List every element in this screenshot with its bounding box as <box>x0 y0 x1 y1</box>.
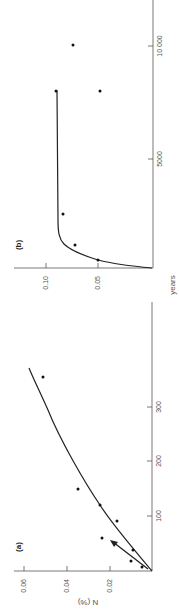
panel-b: 5000 10 000 0.10 0.05 (b) <box>14 0 163 290</box>
b-fit-curve <box>55 91 152 268</box>
a-tick-label-100: 100 <box>155 510 162 522</box>
a-tick-label-300: 300 <box>155 401 162 413</box>
panel-a: 100 200 300 0.06 0.04 0.02 (a) <box>14 302 162 593</box>
n-axis-label: N (%) <box>77 598 98 607</box>
a-point <box>141 566 144 569</box>
b-point <box>72 44 75 47</box>
a-point <box>130 560 133 563</box>
figure: 5000 10 000 0.10 0.05 (b) years 100 200 … <box>0 0 179 611</box>
a-tick-label-0.02: 0.02 <box>106 579 113 593</box>
b-tick-label-10000: 10 000 <box>156 35 163 57</box>
b-tick-label-0.10: 0.10 <box>42 276 49 290</box>
a-point <box>77 488 80 491</box>
arrow-head-icon <box>110 540 118 547</box>
years-axis-label: years <box>168 275 177 295</box>
a-point <box>101 537 104 540</box>
b-point <box>97 259 100 262</box>
b-point <box>74 244 77 247</box>
panel-label-a: (a) <box>14 542 23 552</box>
b-tick-label-0.05: 0.05 <box>94 276 101 290</box>
b-point <box>55 90 58 93</box>
a-tick-label-200: 200 <box>155 455 162 467</box>
panel-label-b: (b) <box>14 240 23 251</box>
a-tick-label-0.06: 0.06 <box>20 579 27 593</box>
b-tick-label-5000: 5000 <box>156 151 163 167</box>
a-tick-label-0.04: 0.04 <box>63 579 70 593</box>
a-point <box>132 549 135 552</box>
a-point <box>42 376 45 379</box>
b-point <box>62 213 65 216</box>
a-point <box>99 504 102 507</box>
a-fit-curve <box>29 368 152 571</box>
b-point <box>99 90 102 93</box>
a-point <box>116 520 119 523</box>
